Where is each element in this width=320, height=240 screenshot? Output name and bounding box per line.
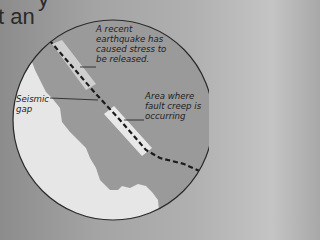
label-line: caused stress to [96, 44, 166, 54]
label-fault-creep: Area where fault creep is occurring [145, 91, 201, 121]
label-line: occurring [145, 111, 201, 121]
label-line: earthquake has [96, 34, 166, 44]
label-line: be released. [96, 54, 166, 64]
label-seismic-gap: Seismic gap [16, 94, 49, 114]
label-line: A recent [96, 24, 166, 34]
label-line: Seismic [16, 94, 49, 104]
label-recent-quake: A recent earthquake has caused stress to… [96, 24, 166, 64]
label-line: fault creep is [145, 101, 201, 111]
label-line: Area where [145, 91, 201, 101]
label-line: gap [16, 104, 49, 114]
